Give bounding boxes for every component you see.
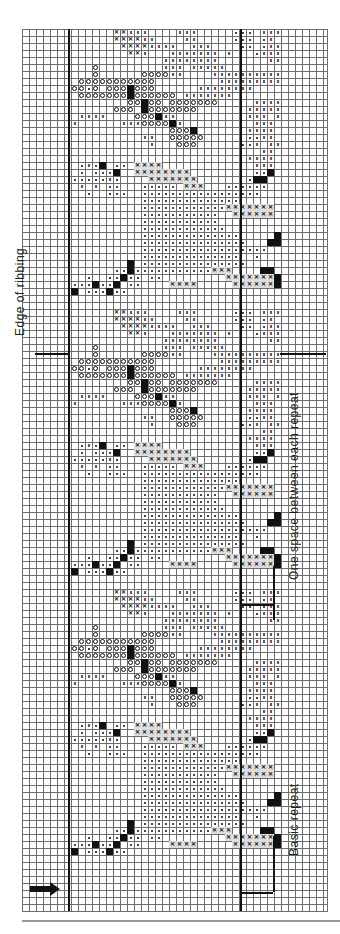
stitch-cell [225,239,232,246]
stitch-cell [197,498,204,505]
stitch-cell [169,736,176,743]
stitch-cell [113,596,120,603]
stitch-cell [260,827,267,834]
stitch-cell [127,561,134,568]
stitch-cell [246,694,253,701]
stitch-cell [211,197,218,204]
stitch-cell [190,701,197,708]
stitch-cell [71,281,78,288]
stitch-cell [148,519,155,526]
stitch-cell [162,736,169,743]
stitch-cell [120,652,127,659]
stitch-cell [162,204,169,211]
stitch-cell [225,190,232,197]
stitch-cell [113,309,120,316]
stitch-cell [246,687,253,694]
stitch-cell [141,505,148,512]
stitch-cell [99,281,106,288]
stitch-cell [218,85,225,92]
stitch-cell [232,281,239,288]
stitch-cell [169,617,176,624]
stitch-cell [134,547,141,554]
stitch-cell [197,526,204,533]
stitch-cell [183,526,190,533]
stitch-cell [225,274,232,281]
stitch-cell [204,771,211,778]
stitch-cell [99,169,106,176]
stitch-cell [211,519,218,526]
stitch-cell [176,757,183,764]
stitch-cell [260,386,267,393]
stitch-cell [176,421,183,428]
stitch-cell [204,246,211,253]
stitch-cell [274,106,281,113]
stitch-cell [183,330,190,337]
stitch-cell [155,176,162,183]
stitch-cell [197,659,204,666]
stitch-cell [260,148,267,155]
stitch-cell [78,743,85,750]
stitch-cell [134,603,141,610]
stitch-cell [169,659,176,666]
stitch-cell [141,134,148,141]
stitch-cell [246,155,253,162]
stitch-cell [92,673,99,680]
stitch-cell [253,750,260,757]
stitch-cell [274,638,281,645]
stitch-cell [197,764,204,771]
stitch-cell [197,267,204,274]
stitch-cell [113,274,120,281]
stitch-cell [246,596,253,603]
stitch-cell [197,99,204,106]
stitch-cell [127,589,134,596]
stitch-cell [218,64,225,71]
stitch-cell [260,484,267,491]
stitch-cell [141,372,148,379]
stitch-cell [134,113,141,120]
stitch-cell [183,309,190,316]
stitch-cell [253,169,260,176]
stitch-cell [127,666,134,673]
stitch-cell [141,190,148,197]
stitch-cell [148,456,155,463]
stitch-cell [204,792,211,799]
stitch-cell [246,85,253,92]
stitch-cell [106,78,113,85]
stitch-cell [260,400,267,407]
stitch-cell [218,631,225,638]
stitch-cell [134,358,141,365]
stitch-cell [204,778,211,785]
stitch-cell [99,393,106,400]
stitch-cell [169,330,176,337]
stitch-cell [134,309,141,316]
stitch-cell [85,561,92,568]
stitch-cell [204,547,211,554]
stitch-cell [85,750,92,757]
stitch-cell [190,806,197,813]
stitch-cell [225,533,232,540]
stitch-cell [232,484,239,491]
stitch-cell [260,113,267,120]
stitch-cell [211,652,218,659]
stitch-cell [204,260,211,267]
stitch-cell [218,197,225,204]
stitch-cell [134,85,141,92]
stitch-cell [183,281,190,288]
stitch-cell [106,470,113,477]
stitch-cell [134,43,141,50]
stitch-cell [155,386,162,393]
stitch-cell [141,211,148,218]
stitch-cell [225,470,232,477]
stitch-cell [260,680,267,687]
stitch-cell [155,533,162,540]
stitch-cell [99,113,106,120]
stitch-cell [71,365,78,372]
stitch-cell [190,50,197,57]
stitch-cell [155,484,162,491]
stitch-cell [190,799,197,806]
stitch-cell [232,463,239,470]
stitch-cell [218,785,225,792]
stitch-cell [134,162,141,169]
stitch-cell [225,484,232,491]
repeat-bracket-line [273,588,275,620]
